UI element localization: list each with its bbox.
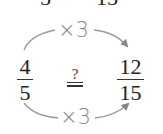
- equals-bar-bottom: [67, 85, 83, 86]
- bottom-arc-left: [24, 103, 58, 118]
- top-arc-left: [24, 30, 55, 50]
- question-mark: ?: [72, 66, 79, 82]
- right-fraction: 12 15: [117, 57, 144, 103]
- left-fraction: 4 5: [17, 57, 33, 103]
- question-equals: ?: [67, 68, 83, 87]
- left-numerator: 4: [17, 57, 33, 77]
- left-denominator: 5: [17, 83, 33, 103]
- right-denominator: 15: [117, 83, 144, 103]
- bottom-arc-right-arrow: [95, 104, 128, 118]
- bottom-multiplier-label: ×3: [60, 105, 91, 129]
- top-arc-right-arrow: [94, 30, 127, 46]
- equals-bar-top: [67, 82, 83, 83]
- top-multiplier-label: ×3: [58, 18, 89, 42]
- right-numerator: 12: [117, 57, 144, 77]
